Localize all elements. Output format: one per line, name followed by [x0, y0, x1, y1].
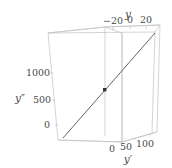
- axis-label-ydoubleprime: y″: [15, 93, 25, 104]
- tick-label-yprime-0: 0: [109, 144, 115, 154]
- tick-label-yprime-50: 50: [120, 142, 132, 152]
- tick-label-yprime-100: 100: [136, 139, 154, 149]
- axis-label-yprime: y′: [124, 154, 132, 165]
- tick-label-y-20: 20: [140, 15, 152, 25]
- data-point-marker: [103, 88, 106, 91]
- box-wireframe: [48, 25, 160, 142]
- tick-marks: [50, 26, 151, 142]
- data-series-trajectory: [63, 33, 155, 138]
- trajectory-line: [63, 33, 155, 138]
- box-front-face: [105, 25, 160, 142]
- box-back-face: [48, 27, 122, 142]
- tick-label-y-0: 0: [127, 15, 133, 25]
- tick-label-ypp-1000: 1000: [26, 68, 50, 78]
- figure-3d-phase-plot: y −20 0 20 0 50 100 y′ y″ 1000 500 0: [0, 0, 172, 168]
- tick-label-y-neg20: −20: [103, 16, 123, 26]
- tick-label-ypp-500: 500: [33, 95, 51, 105]
- box-edge-front-right: [152, 32, 155, 133]
- tick-label-ypp-0: 0: [44, 120, 50, 130]
